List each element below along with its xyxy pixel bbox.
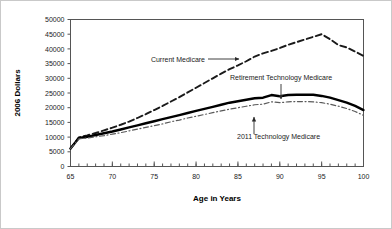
y-tick-label: 40000 <box>45 46 65 53</box>
y-tick-label: 30000 <box>45 75 65 82</box>
chart-canvas: 0500010000150002000025000300003500040000… <box>0 0 392 229</box>
x-tick-label: 100 <box>358 173 370 180</box>
x-tick-label: 95 <box>318 173 326 180</box>
data-series-layer <box>71 34 364 148</box>
y-tick-label: 50000 <box>45 16 65 23</box>
current-medicare-annotation-label: Current Medicare <box>151 56 205 63</box>
x-axis-major-ticks <box>71 162 364 167</box>
y-tick-label: 0 <box>61 163 65 170</box>
y-tick-label: 5000 <box>49 148 65 155</box>
chart-figure: 0500010000150002000025000300003500040000… <box>0 0 392 229</box>
series-line-2011-technology-medicare <box>71 102 364 149</box>
y-tick-label: 20000 <box>45 104 65 111</box>
y-tick-label: 25000 <box>45 90 65 97</box>
y-tick-label: 15000 <box>45 119 65 126</box>
y-axis-tick-labels: 0500010000150002000025000300003500040000… <box>45 16 65 170</box>
2011-technology-medicare-annotation-label: 2011 Technology Medicare <box>237 133 320 141</box>
x-tick-label: 85 <box>234 173 242 180</box>
y-tick-label: 35000 <box>45 60 65 67</box>
retirement-technology-medicare-annotation-label: Retirement Technology Medicare <box>230 74 332 82</box>
x-tick-label: 65 <box>67 173 75 180</box>
x-tick-label: 70 <box>108 173 116 180</box>
x-tick-label: 90 <box>276 173 284 180</box>
chart-annotations-layer: Current MedicareRetirement Technology Me… <box>151 56 332 141</box>
y-tick-label: 10000 <box>45 134 65 141</box>
x-axis-title: Age in Years <box>193 194 241 203</box>
y-axis-title: 2006 Dollars <box>13 69 22 117</box>
y-tick-label: 45000 <box>45 31 65 38</box>
x-tick-label: 75 <box>150 173 158 180</box>
x-axis-tick-labels: 65707580859095100 <box>67 173 370 180</box>
plot-area-frame <box>71 20 364 167</box>
x-tick-label: 80 <box>192 173 200 180</box>
